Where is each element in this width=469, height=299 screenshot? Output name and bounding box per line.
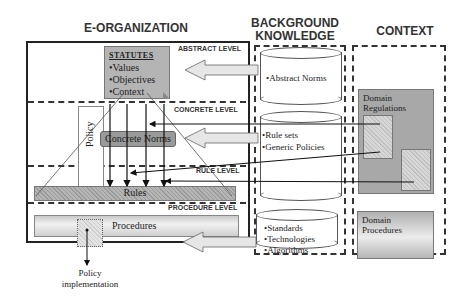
connector-lines: [0, 0, 469, 299]
abstract-arrow-icon: [185, 60, 258, 80]
concrete-arrow-icon: [185, 128, 258, 148]
procedure-arrow-icon: [183, 232, 256, 252]
